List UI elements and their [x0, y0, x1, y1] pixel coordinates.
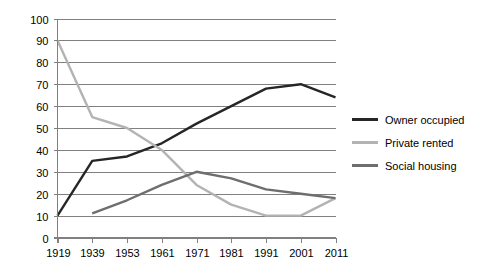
y-axis-tick-label: 70 [36, 79, 48, 91]
y-axis-tick-label: 60 [36, 101, 48, 113]
x-axis-tick-label: 1953 [115, 247, 139, 259]
line-chart: 0102030405060708090100 19191939195319611… [0, 0, 481, 276]
x-axis-labels-group: 191919391953196119711981199120012011 [46, 247, 348, 259]
legend-label-private-rented: Private rented [385, 137, 453, 149]
chart-legend: Owner occupied Private rented Social hou… [352, 108, 477, 177]
legend-item-social-housing: Social housing [352, 154, 477, 177]
x-axis-tick-label: 1991 [254, 247, 278, 259]
legend-swatch-private-rented [352, 141, 378, 144]
x-axis-tick-label: 1939 [80, 247, 104, 259]
x-axis-tick-label: 1981 [219, 247, 243, 259]
y-axis-tick-label: 100 [30, 14, 48, 26]
legend-label-social-housing: Social housing [385, 160, 457, 172]
y-axis-tick-label: 90 [36, 35, 48, 47]
gridlines-group [58, 20, 336, 239]
x-axis-tick-label: 2001 [289, 247, 313, 259]
legend-item-owner-occupied: Owner occupied [352, 108, 477, 131]
y-axis-labels-group: 0102030405060708090100 [30, 14, 48, 245]
legend-swatch-social-housing [352, 164, 378, 167]
x-axis-tick-label: 2011 [325, 247, 349, 259]
series-line-owner-occupied [58, 84, 336, 215]
series-line-social-housing [92, 172, 335, 214]
legend-label-owner-occupied: Owner occupied [385, 114, 465, 126]
y-axis-tick-label: 80 [36, 57, 48, 69]
x-axis-tick-label: 1919 [46, 247, 70, 259]
y-axis-tick-label: 10 [36, 211, 48, 223]
y-axis-tick-label: 30 [36, 167, 48, 179]
x-axis-tick-label: 1971 [185, 247, 209, 259]
y-axis-tick-label: 20 [36, 189, 48, 201]
y-axis-tick-label: 50 [36, 123, 48, 135]
y-axis-ticks-group [54, 20, 58, 239]
y-axis-tick-label: 40 [36, 145, 48, 157]
legend-item-private-rented: Private rented [352, 131, 477, 154]
y-axis-tick-label: 0 [42, 233, 48, 245]
legend-swatch-owner-occupied [352, 118, 378, 121]
x-axis-tick-label: 1961 [150, 247, 174, 259]
